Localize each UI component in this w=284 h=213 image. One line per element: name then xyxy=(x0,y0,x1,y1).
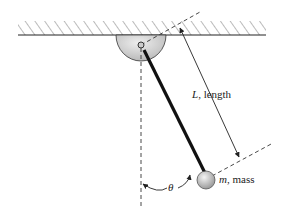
angle-label: θ xyxy=(168,181,174,193)
pendulum-diagram: L, length θ m, mass xyxy=(0,0,284,213)
pendulum-rod xyxy=(144,50,205,173)
mass-label: m, mass xyxy=(219,173,254,185)
pendulum-mass xyxy=(197,171,215,189)
ceiling xyxy=(18,21,266,35)
length-label: L, length xyxy=(191,88,232,100)
pivot-pin xyxy=(138,42,144,48)
angle-arc-right xyxy=(178,175,190,188)
angle-arc xyxy=(143,184,167,190)
mass-extension xyxy=(212,143,273,176)
